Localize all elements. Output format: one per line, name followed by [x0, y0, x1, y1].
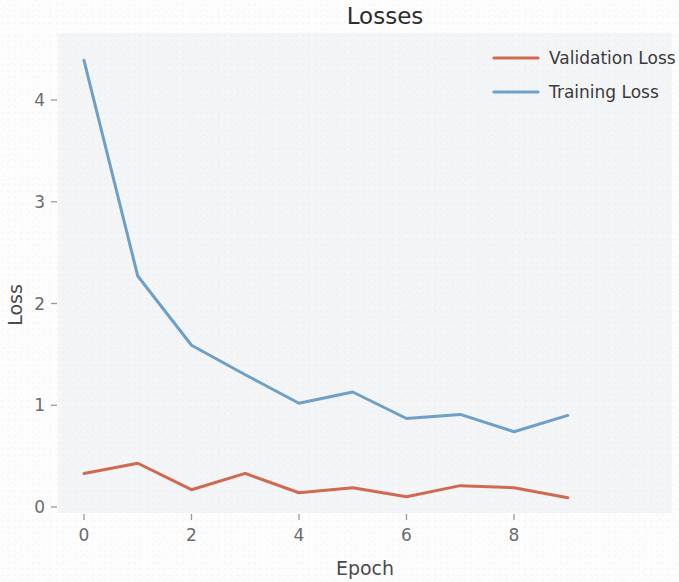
- x-axis-label: Epoch: [336, 557, 394, 579]
- y-tick-label: 3: [34, 192, 45, 212]
- plot-background: [58, 33, 672, 513]
- x-tick-label: 2: [186, 525, 197, 545]
- y-tick-label: 1: [34, 395, 45, 415]
- chart-figure: Losses Loss Epoch 01234 02468 Validation…: [0, 0, 679, 582]
- x-tick-label: 8: [509, 525, 520, 545]
- losses-line-chart: Losses Loss Epoch 01234 02468 Validation…: [0, 0, 679, 582]
- y-axis-label: Loss: [4, 284, 26, 326]
- chart-title: Losses: [347, 3, 424, 29]
- x-tick-label: 6: [401, 525, 412, 545]
- y-axis-ticks: 01234: [34, 90, 57, 517]
- y-tick-label: 4: [34, 90, 45, 110]
- x-tick-label: 0: [79, 525, 90, 545]
- x-tick-label: 4: [294, 525, 305, 545]
- y-tick-label: 2: [34, 294, 45, 314]
- legend-label-training-loss: Training Loss: [548, 82, 659, 102]
- x-axis-ticks: 02468: [79, 514, 520, 545]
- legend-label-validation-loss: Validation Loss: [549, 48, 676, 68]
- y-tick-label: 0: [34, 497, 45, 517]
